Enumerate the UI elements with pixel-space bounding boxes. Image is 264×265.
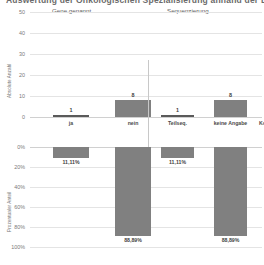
bar-pct-ja[interactable]: [53, 147, 89, 158]
bar-value-keine-angabe: 8: [214, 92, 247, 98]
chart-title: Auswertung der Onkologischen Spezialisie…: [6, 0, 264, 5]
category-label-teilseq: Teilseq.: [156, 120, 199, 126]
ytick-20pct: 20%: [0, 164, 25, 170]
bar-nein[interactable]: [115, 100, 151, 117]
bar-value-ja: 1: [53, 107, 89, 113]
pct-label-nein: 88,89%: [111, 237, 155, 243]
ytick-50: 50: [0, 9, 25, 15]
bar-keine-angabe[interactable]: [214, 100, 247, 117]
ytick-20: 20: [0, 72, 25, 78]
category-label-ja: ja: [49, 120, 93, 126]
ytick-40: 40: [0, 30, 25, 36]
pct-label-keine-angabe: 88,89%: [208, 237, 253, 243]
ytick-100pct: 100%: [0, 244, 25, 250]
gridline-40: [30, 33, 262, 34]
category-label-keine-angabe: keine Angabe: [208, 120, 253, 126]
bar-teilseq[interactable]: [161, 115, 194, 117]
pct-label-ja: 11,11%: [49, 159, 93, 165]
ytick-30: 30: [0, 51, 25, 57]
bar-value-teilseq: 1: [161, 107, 194, 113]
gridline-0: [30, 117, 262, 118]
bar-value-nein: 8: [115, 92, 151, 98]
gridline-100pct: [30, 247, 262, 248]
plot-area-percent: 0% 20% 40% 60% 80% 100% 11,11% 88,89% 11…: [30, 147, 262, 260]
gridline-30: [30, 54, 262, 55]
category-label-komplettseq: Komplettseq.: [253, 120, 264, 126]
ytick-60pct: 60%: [0, 204, 25, 210]
chart-title-strip: Auswertung der Onkologischen Spezialisie…: [0, 0, 264, 5]
ytick-0pct: 0%: [0, 144, 25, 150]
gridline-20: [30, 75, 262, 76]
ytick-40pct: 40%: [0, 184, 25, 190]
ytick-0: 0: [0, 114, 25, 120]
ytick-80pct: 80%: [0, 224, 25, 230]
ytick-10: 10: [0, 93, 25, 99]
bar-ja[interactable]: [53, 115, 89, 117]
bar-value-komplettseq: 0: [258, 109, 264, 115]
bar-pct-teilseq[interactable]: [161, 147, 194, 158]
plot-area-absolute: 50 40 30 20 10 0 1 8 1 8 0 ja nein Teils…: [30, 12, 262, 139]
pct-label-komplettseq: 0,00%: [253, 152, 264, 158]
pct-label-teilseq: 11,11%: [156, 159, 199, 165]
chart-container: Auswertung der Onkologischen Spezialisie…: [0, 0, 264, 265]
gridline-50: [30, 12, 262, 13]
bar-pct-nein[interactable]: [115, 147, 151, 236]
bar-pct-keine-angabe[interactable]: [214, 147, 247, 236]
